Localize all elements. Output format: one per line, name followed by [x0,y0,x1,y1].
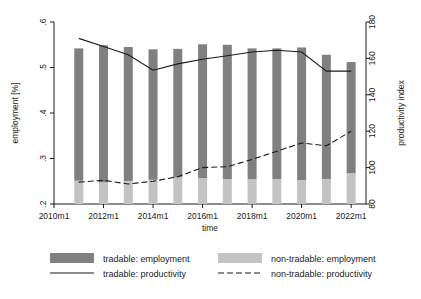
bar-tradable-employment [272,48,281,179]
y-axis-title-left: employment [%] [10,83,20,144]
bar-tradable-employment [297,47,306,180]
bar-nontradable-employment [322,179,331,204]
bar-nontradable-employment [99,183,108,204]
bar-tradable-employment [198,44,207,178]
legend-label-1: non-tradable: employment [271,254,376,264]
x-tick-label: 2018m1 [237,211,268,221]
y-tick-label-left: .3 [38,155,48,162]
bar-tradable-employment [223,45,232,180]
bar-group [74,48,83,204]
bar-nontradable-employment [297,180,306,204]
y-tick-label-right: 160 [367,51,377,65]
bar-nontradable-employment [74,181,83,204]
y-tick-label-left: .4 [38,109,48,116]
bar-tradable-employment [322,55,331,179]
y-tick-label-right: 120 [367,124,377,138]
x-tick-label: 2022m1 [336,211,367,221]
y-tick-label-right: 180 [367,15,377,29]
y-tick-label-right: 140 [367,87,377,101]
bar-group [198,44,207,204]
bar-tradable-employment [99,45,108,182]
legend-swatch-1 [218,253,262,263]
line-tradable-productivity [79,38,351,71]
bar-group [248,48,257,204]
y-tick-label-left: .5 [38,64,48,71]
legend-label-2: tradable: productivity [103,269,187,279]
x-tick-label: 2012m1 [88,211,119,221]
legend-label-3: non-tradable: productivity [271,269,373,279]
chart-figure: .2.3.4.5.6employment [%]8010012014016018… [0,0,421,299]
y-tick-label-right: 100 [367,160,377,174]
bar-group [272,48,281,204]
bar-nontradable-employment [272,179,281,204]
bar-nontradable-employment [248,179,257,204]
bar-nontradable-employment [347,174,356,204]
bar-tradable-employment [124,47,133,181]
y-tick-label-left: .6 [38,18,48,25]
bar-tradable-employment [173,49,182,178]
y-axis-title-right: productivity index [396,79,406,145]
bar-group [297,47,306,204]
bar-group [223,45,232,204]
bar-nontradable-employment [173,178,182,204]
x-tick-label: 2014m1 [138,211,169,221]
bar-group [124,47,133,204]
chart-canvas: .2.3.4.5.6employment [%]8010012014016018… [0,0,421,299]
bar-group [173,49,182,204]
x-axis-title: time [202,223,218,233]
line-nontradable-productivity [79,131,351,184]
y-tick-label-right: 80 [367,199,377,209]
bar-group [322,55,331,204]
x-tick-label: 2016m1 [187,211,218,221]
legend-label-0: tradable: employment [103,254,190,264]
bar-tradable-employment [74,48,83,180]
bar-nontradable-employment [198,178,207,204]
x-tick-label: 2010m1 [39,211,70,221]
bar-nontradable-employment [149,180,158,204]
legend-swatch-0 [50,253,94,263]
bar-tradable-employment [347,62,356,173]
bar-nontradable-employment [223,179,232,204]
bar-nontradable-employment [124,181,133,204]
x-tick-label: 2020m1 [286,211,317,221]
y-tick-label-left: .2 [38,200,48,207]
